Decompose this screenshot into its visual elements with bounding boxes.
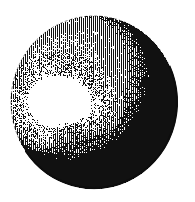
sphere-illustration-canvas (0, 0, 195, 202)
engraving-figure: Engraved spherical object with specular … (0, 0, 195, 202)
